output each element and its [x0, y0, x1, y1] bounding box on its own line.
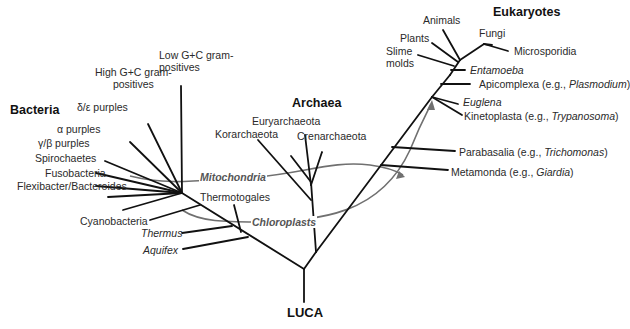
- domain-label-archaea: Archaea: [292, 96, 341, 110]
- taxon-label: Low G+C gram-: [159, 49, 233, 61]
- taxon-fusobacteria: Fusobacteria: [45, 167, 106, 179]
- taxon-label: Slime: [386, 45, 414, 57]
- taxon-gamma-beta-purples: γ/β purples: [38, 137, 90, 149]
- taxon-spirochaetes: Spirochaetes: [35, 152, 96, 164]
- taxon-metamonda: Metamonda (e.g., Giardia): [451, 166, 574, 178]
- taxon-example: Trypanosoma: [552, 110, 615, 122]
- taxon-plants: Plants: [400, 32, 429, 44]
- taxon-euryarchaeota: Euryarchaeota: [252, 115, 320, 127]
- taxon-slime-molds: Slime molds: [386, 45, 414, 69]
- taxon-cyanobacteria: Cyanobacteria: [80, 215, 148, 227]
- taxon-example: Giardia: [536, 166, 570, 178]
- taxon-label: High G+C gram-: [95, 66, 172, 78]
- taxon-crenarchaeota: Crenarchaeota: [297, 130, 366, 142]
- taxon-euglena: Euglena: [463, 96, 502, 108]
- taxon-label: Kinetoplasta (e.g.,: [464, 110, 552, 122]
- taxon-example: Plasmodium: [569, 78, 627, 90]
- taxon-suffix: ): [604, 146, 608, 158]
- taxon-alpha-purples: α purples: [57, 123, 100, 135]
- taxon-suffix: ): [570, 166, 574, 178]
- domain-label-eukaryotes: Eukaryotes: [493, 5, 560, 19]
- taxon-high-gc-gram-positives: High G+C gram- positives: [95, 66, 172, 90]
- taxon-apicomplexa: Apicomplexa (e.g., Plasmodium): [479, 78, 630, 90]
- taxon-fungi: Fungi: [479, 27, 505, 39]
- taxon-label: Metamonda (e.g.,: [451, 166, 536, 178]
- taxon-microsporidia: Microsporidia: [514, 45, 576, 57]
- taxon-aquifex: Aquifex: [143, 244, 178, 256]
- taxon-parabasalia: Parabasalia (e.g., Trichomonas): [459, 146, 608, 158]
- taxon-thermotogales: Thermotogales: [200, 191, 270, 203]
- taxon-flexibacter-bacteroides: Flexibacter/Bacteroides: [17, 180, 127, 192]
- taxon-delta-epsilon-purples: δ/ε purples: [77, 101, 128, 113]
- taxon-korarchaeota: Korarchaeota: [215, 128, 278, 140]
- taxon-suffix: ): [615, 110, 619, 122]
- taxon-label: Parabasalia (e.g.,: [459, 146, 544, 158]
- mitochondria-label: Mitochondria: [199, 171, 267, 183]
- root-label-luca: LUCA: [287, 305, 323, 320]
- taxon-kinetoplasta: Kinetoplasta (e.g., Trypanosoma): [464, 110, 618, 122]
- chloroplasts-label: Chloroplasts: [251, 216, 317, 228]
- taxon-animals: Animals: [423, 14, 460, 26]
- taxon-entamoeba: Entamoeba: [470, 64, 524, 76]
- taxon-thermus: Thermus: [141, 227, 182, 239]
- taxon-label: Apicomplexa (e.g.,: [479, 78, 569, 90]
- taxon-label-line2: molds: [386, 57, 414, 69]
- taxon-label-line2: positives: [95, 78, 172, 90]
- domain-label-bacteria: Bacteria: [10, 103, 59, 117]
- taxon-example: Trichomonas: [544, 146, 604, 158]
